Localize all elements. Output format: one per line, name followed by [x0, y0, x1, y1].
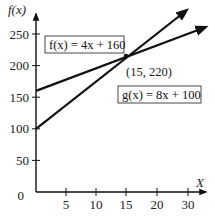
line-chart: 050100150200250 510152030 f(x) X f(x) = …	[0, 0, 215, 220]
x-tick-label: 30	[182, 197, 195, 212]
x-axis-title: X	[195, 175, 205, 190]
g-equation-label: g(x) = 8x + 100	[118, 86, 201, 103]
y-tick-label: 150	[10, 90, 30, 105]
x-tick-label: 5	[63, 197, 70, 212]
intersection-point	[124, 54, 129, 59]
y-tick-label: 200	[10, 58, 30, 73]
x-tick-label: 20	[151, 197, 164, 212]
y-tick-label: 0	[18, 188, 25, 203]
y-axis-title: f(x)	[8, 2, 26, 17]
y-tick-label: 250	[10, 27, 30, 42]
g-equation-text: g(x) = 8x + 100	[122, 88, 201, 102]
f-equation-text: f(x) = 4x + 160	[49, 38, 126, 52]
x-tick-label: 15	[120, 197, 133, 212]
x-tick-label: 10	[90, 197, 103, 212]
y-tick-label: 50	[16, 153, 29, 168]
series-lines	[36, 10, 206, 129]
y-tick-label: 100	[10, 121, 30, 136]
intersection-label: (15, 220)	[126, 65, 172, 79]
f-equation-label: f(x) = 4x + 160	[45, 36, 126, 53]
